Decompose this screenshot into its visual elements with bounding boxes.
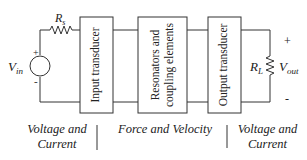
voltage-source-icon [30, 56, 50, 76]
left-domain-label: Voltage and Current [22, 122, 92, 152]
vin-minus: - [34, 75, 38, 87]
resonator-label-line1: Resonators and [149, 29, 161, 100]
vin-label: Vin [8, 59, 23, 76]
output-transducer-label: Output transducer [217, 23, 230, 106]
resonator-label-line2: coupling elements [163, 22, 176, 107]
middle-domain-label: Force and Velocity [110, 122, 220, 137]
right-domain-label: Voltage and Current [230, 122, 305, 152]
source-resistor-icon [50, 26, 72, 34]
load-resistor-icon [266, 56, 274, 75]
input-transducer-label: Input transducer [89, 27, 102, 102]
vout-plus: + [284, 34, 291, 48]
rs-label: Rs [54, 11, 65, 27]
rl-label: RL [249, 59, 263, 76]
vout-label: Vout [279, 59, 299, 76]
vin-plus: + [33, 47, 39, 58]
vout-minus: - [285, 92, 289, 106]
